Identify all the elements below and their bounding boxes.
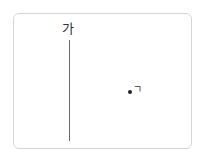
vertical-line	[69, 40, 70, 141]
diagram-frame	[13, 13, 192, 149]
point-label: ㄱ	[133, 84, 142, 96]
line-label: 가	[62, 21, 74, 37]
point-dot	[128, 90, 132, 94]
